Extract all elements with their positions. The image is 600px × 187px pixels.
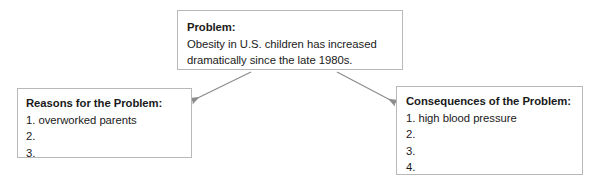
problem-box: Problem: Obesity in U.S. children has in… xyxy=(177,10,403,70)
consequences-box: Consequences of the Problem: 1. high blo… xyxy=(396,86,583,175)
reasons-item-1: 1. overworked parents xyxy=(26,112,182,129)
connector-problem-to-consequences xyxy=(337,72,396,103)
reasons-item-2: 2. xyxy=(26,128,182,145)
problem-line-1: Obesity in U.S. children has increased xyxy=(187,36,393,53)
problem-line-2: dramatically since the late 1980s. xyxy=(187,52,393,69)
reasons-box: Reasons for the Problem: 1. overworked p… xyxy=(17,88,192,158)
consequences-item-3: 3. xyxy=(406,143,573,160)
consequences-heading: Consequences of the Problem: xyxy=(406,93,573,110)
consequences-item-4: 4. xyxy=(406,159,573,176)
reasons-heading: Reasons for the Problem: xyxy=(26,95,182,112)
problem-heading: Problem: xyxy=(187,19,393,36)
connector-problem-to-reasons xyxy=(192,72,252,101)
consequences-item-2: 2. xyxy=(406,126,573,143)
diagram-canvas: Problem: Obesity in U.S. children has in… xyxy=(0,0,600,187)
consequences-item-1: 1. high blood pressure xyxy=(406,110,573,127)
reasons-item-3: 3. xyxy=(26,145,182,162)
